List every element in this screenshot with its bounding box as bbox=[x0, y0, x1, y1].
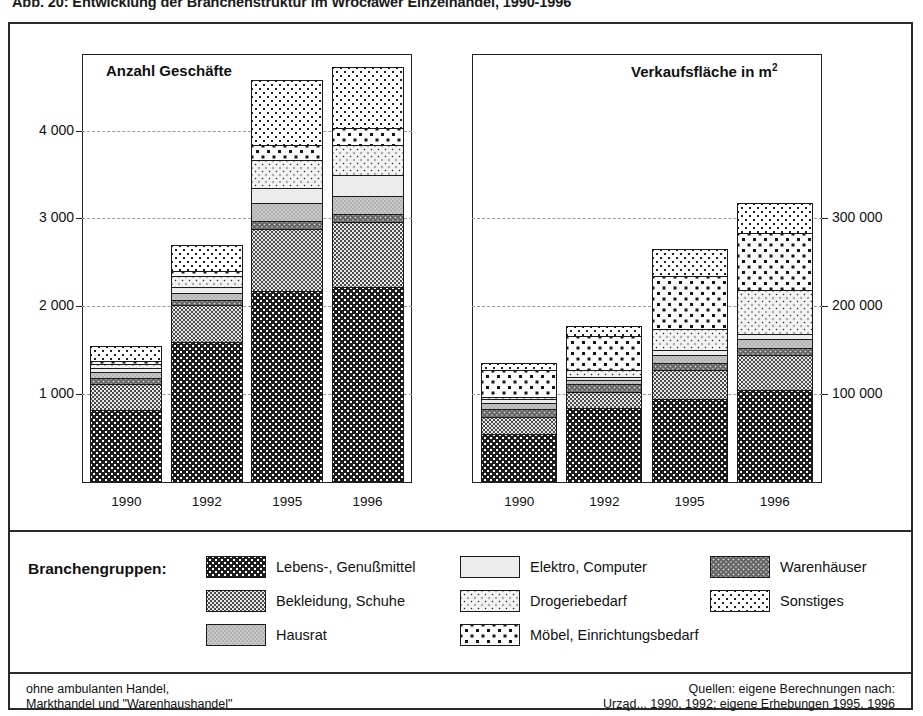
bar-segment-hausrat bbox=[172, 293, 242, 300]
legend: Branchengruppen: Lebens-, GenußmittelBek… bbox=[10, 532, 911, 672]
bar-segment-hausrat bbox=[91, 372, 161, 378]
bar-segment-drogerie bbox=[653, 329, 727, 350]
y-axis-tick-label: 200 000 bbox=[832, 297, 883, 313]
legend-divider-bottom bbox=[10, 672, 911, 674]
bar-segment-warenhaeuser bbox=[172, 300, 242, 306]
bar-segment-moebel bbox=[567, 336, 641, 370]
legend-label-elektro: Elektro, Computer bbox=[530, 556, 647, 578]
chart-right-title: Verkaufsfläche in m2 bbox=[631, 62, 777, 80]
y-axis-tick-label: 300 000 bbox=[832, 209, 883, 225]
legend-label-lebens: Lebens-, Genußmittel bbox=[276, 556, 415, 578]
bar-segment-lebens bbox=[172, 342, 242, 482]
legend-swatch-drogerie bbox=[460, 590, 520, 612]
legend-swatch-warenhaeuser bbox=[710, 556, 770, 578]
legend-title: Branchengruppen: bbox=[28, 560, 167, 578]
legend-label-hausrat: Hausrat bbox=[276, 624, 327, 646]
bar-segment-lebens bbox=[333, 287, 403, 482]
y-axis-tick-label: 1 000 bbox=[0, 385, 74, 401]
bar-segment-moebel bbox=[91, 361, 161, 364]
figure-frame: Anzahl Geschäfte Verkaufsfläche in m2 1 … bbox=[8, 22, 913, 710]
legend-swatch-hausrat bbox=[206, 624, 266, 646]
chart-left-title: Anzahl Geschäfte bbox=[106, 62, 232, 79]
bar-segment-elektro bbox=[653, 350, 727, 354]
stacked-bar bbox=[481, 363, 557, 482]
bar-segment-warenhaeuser bbox=[738, 348, 812, 356]
chart-right-title-exponent: 2 bbox=[772, 62, 778, 73]
legend-label-sonstiges: Sonstiges bbox=[780, 590, 844, 612]
bar-segment-hausrat bbox=[738, 339, 812, 348]
bar-segment-bekleidung bbox=[567, 392, 641, 409]
bar-segment-drogerie bbox=[333, 145, 403, 175]
legend-swatch-sonstiges bbox=[710, 590, 770, 612]
y-axis-tick-label: 2 000 bbox=[0, 297, 74, 313]
y-axis-tick-label: 3 000 bbox=[0, 209, 74, 225]
stacked-bar bbox=[251, 80, 323, 482]
y-axis-tick-label: 100 000 bbox=[832, 385, 883, 401]
legend-label-warenhaeuser: Warenhäuser bbox=[780, 556, 867, 578]
figure-root: Abb. 20: Entwicklung der Branchenstruktu… bbox=[0, 0, 923, 716]
y-axis-tick-mark bbox=[76, 131, 82, 132]
bar-segment-lebens bbox=[91, 410, 161, 482]
bar-segment-drogerie bbox=[91, 364, 161, 368]
stacked-bar bbox=[652, 249, 728, 482]
legend-swatch-lebens bbox=[206, 556, 266, 578]
footnote-right: Quellen: eigene Berechnungen nach: Urząd… bbox=[603, 682, 895, 712]
bar-segment-sonstiges bbox=[738, 203, 812, 234]
bar-segment-elektro bbox=[738, 334, 812, 339]
footnote-left-line2: Markthandel und "Warenhaushandel" bbox=[26, 697, 232, 712]
bar-segment-warenhaeuser bbox=[91, 378, 161, 385]
stacked-bar bbox=[90, 346, 162, 482]
bar-segment-moebel bbox=[252, 145, 322, 160]
bar-segment-warenhaeuser bbox=[252, 221, 322, 229]
bar-segment-warenhaeuser bbox=[567, 384, 641, 391]
bar-segment-warenhaeuser bbox=[653, 363, 727, 371]
y-axis-tick-mark bbox=[76, 218, 82, 219]
y-axis-tick-label: 4 000 bbox=[0, 122, 74, 138]
legend-swatch-moebel bbox=[460, 624, 520, 646]
bar-segment-drogerie bbox=[172, 276, 242, 288]
bar-segment-lebens bbox=[653, 399, 727, 482]
bar-segment-bekleidung bbox=[653, 370, 727, 398]
bar-segment-sonstiges bbox=[653, 249, 727, 276]
bar-segment-elektro bbox=[91, 368, 161, 372]
bar-segment-warenhaeuser bbox=[482, 409, 556, 417]
bar-segment-sonstiges bbox=[333, 67, 403, 128]
bar-segment-drogerie bbox=[252, 160, 322, 187]
bar-segment-sonstiges bbox=[482, 363, 556, 369]
legend-swatch-bekleidung bbox=[206, 590, 266, 612]
plot-band: Anzahl Geschäfte Verkaufsfläche in m2 1 … bbox=[10, 24, 911, 530]
bar-segment-moebel bbox=[653, 276, 727, 329]
bar-segment-bekleidung bbox=[333, 222, 403, 287]
bar-segment-hausrat bbox=[252, 203, 322, 221]
bar-segment-moebel bbox=[738, 233, 812, 289]
bar-segment-bekleidung bbox=[738, 355, 812, 389]
y-axis-tick-mark bbox=[76, 306, 82, 307]
bar-segment-hausrat bbox=[482, 403, 556, 409]
chart-right-title-text: Verkaufsfläche in m bbox=[631, 63, 772, 80]
stacked-bar bbox=[737, 203, 813, 482]
bar-segment-sonstiges bbox=[567, 326, 641, 336]
bar-segment-drogerie bbox=[482, 397, 556, 400]
bar-segment-elektro bbox=[252, 188, 322, 203]
footnote-left-line1: ohne ambulanten Handel, bbox=[26, 682, 232, 697]
bar-segment-sonstiges bbox=[252, 80, 322, 145]
bar-segment-drogerie bbox=[567, 370, 641, 376]
bar-segment-bekleidung bbox=[91, 384, 161, 409]
bar-segment-elektro bbox=[482, 399, 556, 403]
x-axis-tick-label: 1996 bbox=[723, 494, 827, 509]
y-axis-tick-mark bbox=[822, 394, 828, 395]
figure-caption: Abb. 20: Entwicklung der Branchenstruktu… bbox=[12, 0, 912, 16]
legend-swatch-elektro bbox=[460, 556, 520, 578]
bar-segment-lebens bbox=[482, 434, 556, 482]
bar-segment-lebens bbox=[567, 408, 641, 482]
bar-segment-elektro bbox=[172, 287, 242, 292]
bar-segment-moebel bbox=[172, 271, 242, 276]
footnote-right-line2: Urząd... 1990, 1992; eigene Erhebungen 1… bbox=[603, 697, 895, 712]
footnote-right-line1: Quellen: eigene Berechnungen nach: bbox=[603, 682, 895, 697]
bar-segment-sonstiges bbox=[91, 346, 161, 361]
bar-segment-elektro bbox=[333, 175, 403, 197]
stacked-bar bbox=[171, 245, 243, 482]
y-axis-tick-mark bbox=[822, 218, 828, 219]
bar-segment-bekleidung bbox=[252, 229, 322, 291]
bar-segment-bekleidung bbox=[172, 305, 242, 342]
